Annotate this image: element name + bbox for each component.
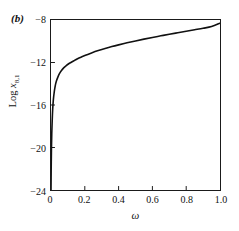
x-axis-tick-labels: 00.20.40.60.81.0 (50, 194, 221, 208)
y-axis-label-prefix: Log (7, 88, 18, 108)
x-tick-label: 0.2 (78, 194, 91, 205)
x-tick-label: 0.6 (146, 194, 159, 205)
x-tick-label: 0.8 (181, 194, 194, 205)
figure-panel-b: (b) −8−12−16−20−24 Log x8,1 00.20.40.60.… (0, 0, 239, 231)
y-tick-label: −24 (30, 186, 46, 197)
y-axis-label-subscript: 8,1 (13, 75, 21, 84)
y-tick-label: −8 (35, 14, 46, 25)
y-tick-label: −16 (30, 100, 46, 111)
x-axis-label: ω (50, 209, 221, 221)
y-axis-label-variable: x (7, 83, 18, 88)
tick-marks (51, 63, 186, 191)
data-curve-line (51, 23, 220, 190)
y-tick-label: −20 (30, 143, 46, 154)
x-tick-label: 0.4 (112, 194, 125, 205)
x-tick-label: 1.0 (215, 194, 228, 205)
x-tick-label: 0 (48, 194, 53, 205)
y-axis-label: Log x8,1 (7, 53, 21, 129)
plot-area (50, 19, 221, 191)
y-tick-label: −12 (30, 57, 46, 68)
curve-svg (51, 20, 220, 190)
